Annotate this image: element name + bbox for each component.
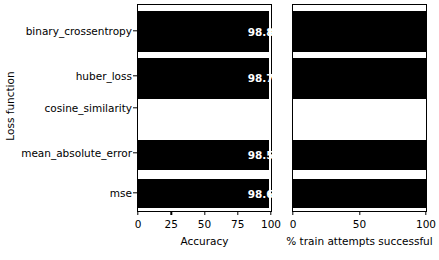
bar-huber-loss-success[interactable]: [293, 58, 426, 99]
y-tick-label: cosine_similarity: [16, 102, 132, 114]
y-tick-label: mean_absolute_error: [16, 147, 132, 159]
bar-value-label: 98.6: [248, 188, 274, 200]
y-tick-label: mse: [16, 187, 132, 199]
y-tick-label: huber_loss: [16, 70, 132, 82]
x-tick-label: 50: [198, 218, 211, 230]
x-tick-label: 50: [353, 218, 366, 230]
x-tick-label: 100: [261, 218, 281, 230]
bar-value-label: 98.5: [248, 149, 274, 161]
train-success-plot-area: [293, 5, 426, 211]
y-tick-label: binary_crossentropy: [16, 25, 132, 37]
x-tick-mark: [137, 211, 138, 215]
x-tick-label: 75: [231, 218, 244, 230]
x-tick-mark: [237, 211, 238, 215]
y-tick-label-group: binary_crossentropy huber_loss cosine_si…: [16, 0, 132, 260]
train-success-subplot-axes: 0 50 100 % train attempts successful: [292, 4, 427, 212]
figure-canvas: Loss function binary_crossentropy huber_…: [0, 0, 439, 260]
x-tick-mark: [204, 211, 205, 215]
x-tick-mark: [270, 211, 271, 215]
x-tick-label: 0: [135, 218, 142, 230]
x-tick-mark: [292, 211, 293, 215]
accuracy-subplot-axes: 98.8 98.7 98.5 98.6 0 25 50 75 100 Accur…: [137, 4, 272, 212]
bar-value-label: 98.7: [248, 72, 274, 84]
bar-binary-crossentropy-success[interactable]: [293, 11, 426, 52]
x-tick-mark: [359, 211, 360, 215]
bar-value-label: 98.8: [248, 26, 274, 38]
x-tick-mark: [425, 211, 426, 215]
x-tick-label: 0: [290, 218, 297, 230]
x-tick-label: 100: [416, 218, 436, 230]
x-tick-mark: [171, 211, 172, 215]
accuracy-plot-area: 98.8 98.7 98.5 98.6: [138, 5, 271, 211]
x-tick-label: 25: [165, 218, 178, 230]
bar-mse-success[interactable]: [293, 179, 426, 208]
x-axis-label-train-success: % train attempts successful: [286, 235, 432, 247]
bar-mean-absolute-error-success[interactable]: [293, 140, 426, 170]
x-axis-label-accuracy: Accuracy: [181, 235, 229, 247]
